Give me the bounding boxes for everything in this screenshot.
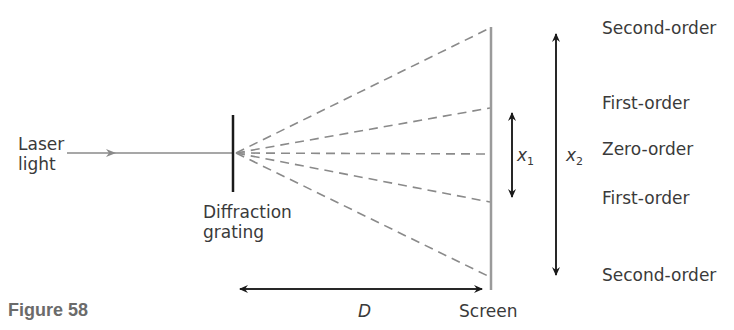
diffraction-diagram: Laser light Diffraction grating Screen D… bbox=[0, 0, 734, 330]
order-label-zero: Zero-order bbox=[602, 139, 693, 159]
order-label-second-bottom: Second-order bbox=[602, 265, 716, 285]
laser-label: Laser light bbox=[18, 134, 64, 174]
order-label-first-bottom: First-order bbox=[602, 188, 690, 208]
distance-label: D bbox=[358, 301, 371, 321]
grating-label: Diffraction grating bbox=[203, 202, 292, 242]
x2-label: x2 bbox=[566, 145, 583, 172]
laser-beam bbox=[67, 149, 234, 157]
figure-caption: Figure 58 bbox=[8, 300, 88, 321]
order-label-second-top: Second-order bbox=[602, 18, 716, 38]
order-label-first-top: First-order bbox=[602, 93, 690, 113]
x1-label: x1 bbox=[517, 145, 534, 172]
screen-label: Screen bbox=[459, 301, 517, 321]
